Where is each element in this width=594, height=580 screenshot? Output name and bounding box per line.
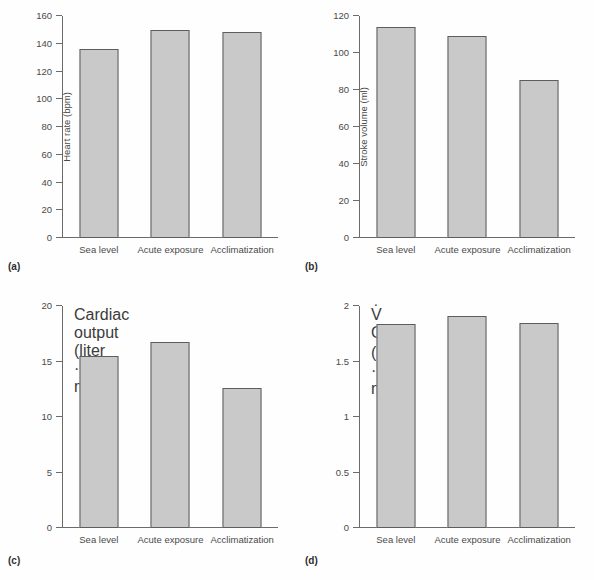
x-axis-category-label: Acute exposure xyxy=(434,244,500,255)
y-tick-label: 100 xyxy=(333,48,349,58)
bar-slot: Sea level xyxy=(63,16,135,238)
y-tick-mark: 1 xyxy=(353,416,359,417)
y-tick-label: 100 xyxy=(36,95,52,105)
bar[interactable] xyxy=(520,323,559,528)
y-tick-label: 20 xyxy=(41,206,52,216)
bar-slot: Acute exposure xyxy=(135,306,207,528)
y-tick-mark: 0 xyxy=(353,527,359,528)
y-tick-mark: 120 xyxy=(56,71,62,72)
bar-slot: Sea level xyxy=(360,306,432,528)
bar-slot: Acclimatization xyxy=(206,306,278,528)
y-tick-mark: 80 xyxy=(353,89,359,90)
y-tick-mark: 160 xyxy=(56,15,62,16)
y-tick-mark: 0 xyxy=(56,527,62,528)
y-tick-mark: 140 xyxy=(56,43,62,44)
bar[interactable] xyxy=(151,342,190,528)
y-tick-mark: 60 xyxy=(353,126,359,127)
y-tick-mark: 0 xyxy=(353,237,359,238)
bar-group-b: Sea levelAcute exposureAcclimatization xyxy=(360,16,575,238)
figure-four-panel-bar-charts: Heart rate (bpm) 020406080100120140160 S… xyxy=(0,0,594,580)
bar[interactable] xyxy=(223,32,262,238)
y-tick-label: 60 xyxy=(41,150,52,160)
bar[interactable] xyxy=(79,49,118,238)
y-tick-mark: 60 xyxy=(56,154,62,155)
x-axis-category-label: Acclimatization xyxy=(210,534,273,545)
bar[interactable] xyxy=(223,388,262,528)
y-tick-mark: 100 xyxy=(353,52,359,53)
y-tick-label: 60 xyxy=(338,122,349,132)
y-tick-label: 2 xyxy=(344,301,349,311)
bar[interactable] xyxy=(520,80,559,238)
y-tick-label: 120 xyxy=(36,67,52,77)
bar-slot: Sea level xyxy=(360,16,432,238)
panel-letter-c: (c) xyxy=(8,555,20,566)
y-tick-label: 0.5 xyxy=(336,468,349,478)
bar-group-c: Sea levelAcute exposureAcclimatization xyxy=(63,306,278,528)
x-axis-category-label: Acclimatization xyxy=(507,534,570,545)
y-tick-label: 1 xyxy=(344,412,349,422)
x-axis-category-label: Sea level xyxy=(79,244,118,255)
y-tick-label: 120 xyxy=(333,11,349,21)
y-tick-label: 140 xyxy=(36,39,52,49)
y-tick-label: 160 xyxy=(36,11,52,21)
x-axis-category-label: Acclimatization xyxy=(507,244,570,255)
bar-slot: Acclimatization xyxy=(503,306,575,528)
y-tick-label: 20 xyxy=(41,301,52,311)
bar-slot: Acute exposure xyxy=(432,16,504,238)
x-axis-category-label: Acute exposure xyxy=(137,244,203,255)
y-tick-label: 15 xyxy=(41,357,52,367)
y-tick-mark: 40 xyxy=(353,163,359,164)
y-tick-label: 40 xyxy=(41,178,52,188)
bar-group-d: Sea levelAcute exposureAcclimatization xyxy=(360,306,575,528)
y-tick-label: 0 xyxy=(344,233,349,243)
y-tick-label: 10 xyxy=(41,412,52,422)
bar-slot: Acclimatization xyxy=(206,16,278,238)
y-tick-mark: 20 xyxy=(353,200,359,201)
bar[interactable] xyxy=(79,356,118,528)
panel-a: Heart rate (bpm) 020406080100120140160 S… xyxy=(0,0,297,290)
y-tick-label: 0 xyxy=(47,523,52,533)
panel-letter-b: (b) xyxy=(305,261,318,272)
y-tick-mark: 15 xyxy=(56,361,62,362)
x-axis-category-label: Acute exposure xyxy=(434,534,500,545)
y-tick-label: 80 xyxy=(338,85,349,95)
bar[interactable] xyxy=(151,30,190,238)
y-tick-label: 80 xyxy=(41,122,52,132)
x-axis-category-label: Acute exposure xyxy=(137,534,203,545)
y-tick-label: 20 xyxy=(338,196,349,206)
bar[interactable] xyxy=(376,324,415,528)
y-tick-label: 40 xyxy=(338,159,349,169)
y-tick-mark: 1.5 xyxy=(353,361,359,362)
y-tick-label: 5 xyxy=(47,468,52,478)
bar-slot: Acute exposure xyxy=(135,16,207,238)
y-tick-mark: 0.5 xyxy=(353,472,359,473)
bar[interactable] xyxy=(448,36,487,238)
panel-letter-a: (a) xyxy=(8,261,20,272)
bar-slot: Acute exposure xyxy=(432,306,504,528)
x-axis-category-label: Sea level xyxy=(79,534,118,545)
bar-slot: Sea level xyxy=(63,306,135,528)
plot-area-b: Stroke volume (ml) 020406080100120 Sea l… xyxy=(359,16,575,238)
panel-b: Stroke volume (ml) 020406080100120 Sea l… xyxy=(297,0,594,290)
panel-d: VO2 (liters · min−1) 00.511.52 Sea level… xyxy=(297,290,594,580)
y-tick-label: 0 xyxy=(47,233,52,243)
panel-letter-d: (d) xyxy=(305,555,318,566)
bar-slot: Acclimatization xyxy=(503,16,575,238)
x-axis-category-label: Sea level xyxy=(376,534,415,545)
y-tick-label: 1.5 xyxy=(336,357,349,367)
bar[interactable] xyxy=(376,27,415,238)
plot-area-d: VO2 (liters · min−1) 00.511.52 Sea level… xyxy=(359,306,575,528)
bar-group-a: Sea levelAcute exposureAcclimatization xyxy=(63,16,278,238)
panel-c: Cardiac output (liter · min−1) 05101520 … xyxy=(0,290,297,580)
y-tick-mark: 5 xyxy=(56,472,62,473)
y-tick-mark: 10 xyxy=(56,416,62,417)
bar[interactable] xyxy=(448,316,487,528)
y-tick-mark: 2 xyxy=(353,305,359,306)
plot-area-a: Heart rate (bpm) 020406080100120140160 S… xyxy=(62,16,278,238)
y-tick-mark: 80 xyxy=(56,126,62,127)
y-tick-mark: 20 xyxy=(56,209,62,210)
y-tick-label: 0 xyxy=(344,523,349,533)
plot-area-c: Cardiac output (liter · min−1) 05101520 … xyxy=(62,306,278,528)
x-axis-category-label: Acclimatization xyxy=(210,244,273,255)
y-tick-mark: 0 xyxy=(56,237,62,238)
